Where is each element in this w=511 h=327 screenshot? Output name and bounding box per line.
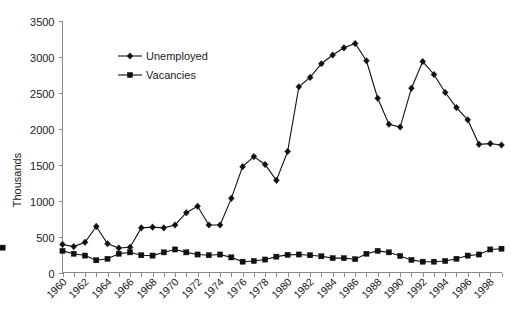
x-tick-label: 1992 — [404, 275, 429, 300]
x-tick-label: 1964 — [89, 275, 114, 300]
x-tick-label: 1972 — [179, 275, 204, 300]
data-point-marker — [150, 224, 156, 231]
chart-legend: UnemployedVacancies — [118, 50, 208, 81]
data-point-marker — [172, 247, 177, 252]
data-point-marker — [116, 245, 122, 252]
data-point-marker — [184, 250, 189, 255]
x-tick-label: 1968 — [134, 275, 159, 300]
data-point-marker — [319, 254, 324, 259]
y-tick-label: 1000 — [30, 196, 54, 208]
data-point-marker — [60, 248, 65, 253]
data-point-marker — [386, 121, 392, 128]
data-point-marker — [409, 257, 414, 262]
data-point-marker — [217, 252, 222, 257]
data-point-marker — [341, 45, 347, 52]
data-point-marker — [139, 253, 144, 258]
data-point-marker — [499, 246, 504, 251]
y-tick-label: 2500 — [30, 88, 54, 100]
x-tick-label: 1978 — [246, 275, 271, 300]
y-tick-label: 1500 — [30, 160, 54, 172]
x-tick-label: 1996 — [449, 275, 474, 300]
data-point-marker — [487, 140, 493, 147]
x-axis-tick-labels: 1960196219641966196819701972197419761978… — [44, 275, 496, 300]
data-point-marker — [150, 253, 155, 258]
data-point-marker — [476, 141, 482, 148]
data-point-marker — [127, 250, 132, 255]
data-point-marker — [386, 250, 391, 255]
data-point-marker — [341, 256, 346, 261]
x-tick-label: 1974 — [201, 275, 226, 300]
y-tick-label: 0 — [48, 268, 54, 280]
data-point-marker — [397, 124, 403, 131]
y-tick-label: 500 — [36, 232, 54, 244]
data-point-marker — [161, 225, 167, 232]
line-chart: Thousands 0500100015002000250030003500 1… — [0, 0, 511, 327]
x-tick-label: 1970 — [156, 275, 181, 300]
x-tick-label: 1982 — [291, 275, 316, 300]
x-tick-label: 1994 — [426, 275, 451, 300]
data-point-marker — [308, 253, 313, 258]
series-layer — [0, 40, 505, 264]
data-point-marker — [195, 252, 200, 257]
data-point-marker — [206, 253, 211, 258]
data-point-marker — [105, 256, 110, 261]
x-tick-label: 1986 — [336, 275, 361, 300]
chart-page: Thousands 0500100015002000250030003500 1… — [0, 0, 511, 327]
data-point-marker — [161, 250, 166, 255]
x-tick-label: 1966 — [111, 275, 136, 300]
data-point-marker — [251, 258, 256, 263]
data-point-marker — [116, 251, 121, 256]
axes-group — [63, 21, 502, 273]
data-point-marker — [127, 72, 132, 77]
data-point-marker — [240, 259, 245, 264]
x-tick-label: 1962 — [66, 275, 91, 300]
data-point-marker — [420, 259, 425, 264]
data-point-marker — [375, 248, 380, 253]
data-point-marker — [476, 252, 481, 257]
data-point-marker — [375, 95, 381, 102]
data-point-marker — [228, 195, 234, 202]
data-point-marker — [398, 253, 403, 258]
data-point-marker — [454, 256, 459, 261]
data-point-marker — [195, 203, 201, 210]
data-point-marker — [229, 255, 234, 260]
x-tick-label: 1984 — [314, 275, 339, 300]
data-point-marker — [488, 247, 493, 252]
legend-label: Unemployed — [146, 50, 208, 62]
x-tick-label: 1980 — [269, 275, 294, 300]
data-point-marker — [443, 258, 448, 263]
data-point-marker — [353, 257, 358, 262]
data-point-marker — [82, 253, 87, 258]
data-point-marker — [71, 243, 77, 250]
data-point-marker — [431, 259, 436, 264]
data-point-marker — [127, 53, 133, 60]
y-tick-label: 3500 — [30, 16, 54, 28]
legend-label: Vacancies — [146, 69, 196, 81]
data-point-marker — [408, 85, 414, 92]
data-point-marker — [499, 142, 505, 149]
data-point-marker — [0, 245, 5, 250]
y-axis-title: Thousands — [11, 152, 23, 207]
series-unemployed — [60, 40, 505, 251]
data-point-marker — [274, 254, 279, 259]
data-point-marker — [285, 148, 291, 155]
data-point-marker — [296, 252, 301, 257]
data-point-marker — [465, 253, 470, 258]
x-tick-label: 1976 — [224, 275, 249, 300]
data-point-marker — [330, 52, 336, 59]
data-point-marker — [217, 222, 223, 229]
legend-item-unemployed: Unemployed — [118, 50, 208, 62]
y-tick-label: 2000 — [30, 124, 54, 136]
data-point-marker — [71, 251, 76, 256]
y-axis-ticks: 0500100015002000250030003500 — [30, 16, 62, 280]
x-tick-label: 1990 — [381, 275, 406, 300]
data-point-marker — [138, 225, 144, 232]
x-axis-ticks — [64, 273, 503, 277]
y-axis-title-group: Thousands — [11, 152, 23, 207]
legend-item-vacancies: Vacancies — [118, 69, 196, 81]
data-point-marker — [206, 222, 212, 229]
y-tick-label: 3000 — [30, 52, 54, 64]
data-point-marker — [263, 257, 268, 262]
data-point-marker — [285, 252, 290, 257]
x-tick-label: 1998 — [471, 275, 496, 300]
